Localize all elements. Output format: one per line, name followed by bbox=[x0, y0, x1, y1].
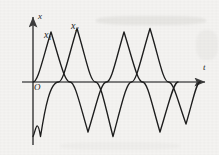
origin-label: O bbox=[34, 83, 41, 92]
curve-label-x1: x1 bbox=[44, 30, 52, 40]
oscillation-figure bbox=[0, 0, 219, 155]
axis-label-t: t bbox=[203, 63, 206, 72]
axis-label-x: x bbox=[38, 12, 42, 21]
curve-label-x2: x2 bbox=[71, 21, 79, 31]
